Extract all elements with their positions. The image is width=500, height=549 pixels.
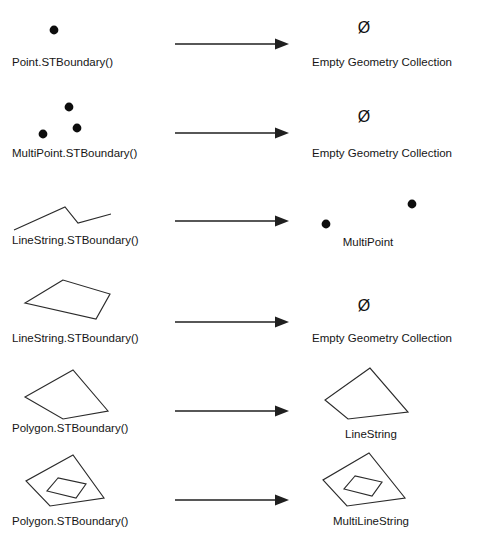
arrow-row-linestring-closed bbox=[175, 317, 289, 328]
output-ring bbox=[325, 368, 408, 419]
output-label-polygon-hole: MultiLineString bbox=[333, 515, 409, 527]
output-inner-ring bbox=[344, 476, 382, 496]
input-point-dot bbox=[50, 26, 59, 35]
row-multipoint: MultiPoint.STBoundary() Ø Empty Geometry… bbox=[12, 103, 452, 159]
input-label-linestring-closed: LineString.STBoundary() bbox=[12, 332, 139, 344]
arrow-row-point bbox=[175, 39, 289, 50]
input-polygon-hole-ring bbox=[47, 478, 86, 498]
input-label-multipoint: MultiPoint.STBoundary() bbox=[12, 147, 137, 159]
output-dot-2 bbox=[408, 200, 417, 209]
arrow-row-multipoint bbox=[175, 128, 289, 139]
multipoint-dot-1 bbox=[65, 103, 74, 112]
multipoint-dot-2 bbox=[73, 124, 82, 133]
output-label-point: Empty Geometry Collection bbox=[312, 56, 452, 68]
output-label-polygon-simple: LineString bbox=[345, 428, 397, 440]
input-open-linestring bbox=[14, 207, 111, 230]
output-empty-symbol-point: Ø bbox=[358, 19, 370, 36]
output-dot-1 bbox=[322, 220, 331, 229]
output-empty-symbol-linestring-closed: Ø bbox=[358, 297, 370, 314]
arrow-row-polygon-simple bbox=[175, 406, 289, 417]
input-label-polygon-hole: Polygon.STBoundary() bbox=[12, 515, 129, 527]
output-empty-symbol-multipoint: Ø bbox=[358, 108, 370, 125]
output-label-linestring-open: MultiPoint bbox=[343, 236, 394, 248]
row-polygon-simple: Polygon.STBoundary() LineString bbox=[12, 368, 408, 440]
input-closed-linestring bbox=[25, 280, 110, 319]
row-linestring-closed: LineString.STBoundary() Ø Empty Geometry… bbox=[12, 280, 452, 344]
input-polygon-outer-ring bbox=[26, 455, 104, 506]
output-multipoint-dots bbox=[322, 200, 417, 229]
footer-note bbox=[0, 541, 500, 549]
row-point: Point.STBoundary() Ø Empty Geometry Coll… bbox=[12, 19, 452, 68]
input-polygon bbox=[25, 370, 108, 419]
output-label-linestring-closed: Empty Geometry Collection bbox=[312, 332, 452, 344]
input-label-point: Point.STBoundary() bbox=[12, 56, 113, 68]
input-multipoint-dots bbox=[39, 103, 82, 139]
arrow-row-linestring-open bbox=[175, 216, 289, 227]
stboundary-diagram: Point.STBoundary() Ø Empty Geometry Coll… bbox=[0, 0, 500, 549]
row-polygon-hole: Polygon.STBoundary() MultiLineString bbox=[12, 453, 409, 527]
output-label-multipoint: Empty Geometry Collection bbox=[312, 147, 452, 159]
output-outer-ring bbox=[323, 453, 405, 506]
arrow-row-polygon-hole bbox=[175, 495, 289, 506]
input-label-polygon-simple: Polygon.STBoundary() bbox=[12, 422, 129, 434]
multipoint-dot-3 bbox=[39, 130, 48, 139]
input-label-linestring-open: LineString.STBoundary() bbox=[12, 234, 139, 246]
row-linestring-open: LineString.STBoundary() MultiPoint bbox=[12, 200, 416, 248]
